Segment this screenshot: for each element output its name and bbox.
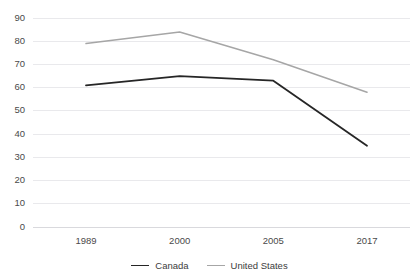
legend-label: Canada	[155, 261, 188, 271]
y-axis-tick-label: 70	[14, 58, 25, 69]
x-axis-tick-label: 2005	[263, 235, 284, 246]
y-axis-tick-label: 20	[14, 174, 25, 185]
y-axis-tick-label: 90	[14, 12, 25, 23]
legend-item-united-states[interactable]: United States	[207, 261, 288, 271]
line-chart: 0102030405060708090 1989200020052017 Can…	[0, 0, 419, 276]
y-axis-tick-label: 50	[14, 104, 25, 115]
legend-line-swatch-icon	[131, 265, 149, 266]
chart-plot-area: 0102030405060708090 1989200020052017	[0, 0, 419, 276]
legend-line-swatch-icon	[207, 265, 225, 266]
gridlines	[33, 18, 410, 227]
y-axis-tick-label: 40	[14, 128, 25, 139]
y-axis-tick-label: 80	[14, 35, 25, 46]
y-axis-tick-label: 60	[14, 81, 25, 92]
x-axis-tick-label: 1989	[75, 235, 96, 246]
y-axis-tick-label: 10	[14, 197, 25, 208]
legend-label: United States	[231, 261, 288, 271]
y-axis-tick-labels: 0102030405060708090	[14, 12, 25, 232]
y-axis-tick-label: 0	[20, 221, 25, 232]
y-axis-tick-label: 30	[14, 151, 25, 162]
chart-legend: CanadaUnited States	[0, 261, 419, 271]
legend-item-canada[interactable]: Canada	[131, 261, 188, 271]
x-axis-tick-labels: 1989200020052017	[75, 235, 377, 246]
data-series	[86, 32, 367, 146]
x-axis-tick-label: 2017	[356, 235, 377, 246]
x-axis-tick-label: 2000	[169, 235, 190, 246]
